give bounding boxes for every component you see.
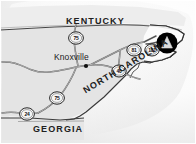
shield-i-24-number: 24 [24, 111, 30, 117]
shield-i-75-south: 75 [50, 92, 65, 104]
shield-i-40: 40 [112, 65, 126, 77]
map-graphic: 75 81 181 40 [0, 0, 196, 144]
shield-i-181-number: 181 [148, 47, 156, 53]
shield-i-75-north: 75 [69, 32, 84, 44]
knoxville-city-dot [84, 64, 88, 68]
shield-i-81: 81 [127, 44, 141, 56]
destination-marker[interactable] [157, 33, 178, 54]
shield-i-81-number: 81 [131, 47, 137, 53]
shield-i-24: 24 [20, 108, 35, 120]
shield-i-75-north-number: 75 [73, 35, 79, 41]
shield-i-40-number: 40 [116, 68, 122, 74]
shield-i-75-south-number: 75 [54, 95, 60, 101]
locator-map-figure: 75 81 181 40 [0, 0, 196, 144]
